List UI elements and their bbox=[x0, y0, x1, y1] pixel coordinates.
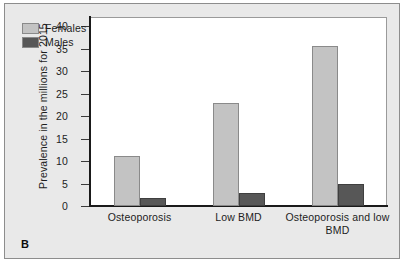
bar-males-1 bbox=[239, 193, 265, 207]
y-tick-label: 20 bbox=[28, 111, 68, 122]
y-tick-label: 30 bbox=[28, 66, 68, 77]
y-tick-mark bbox=[81, 116, 89, 117]
y-tick-mark bbox=[81, 161, 89, 162]
panel-label: B bbox=[21, 238, 29, 250]
bar-males-0 bbox=[140, 198, 166, 206]
y-tick-label: 0 bbox=[28, 201, 68, 212]
bars-layer bbox=[90, 17, 387, 206]
y-tick-mark bbox=[81, 139, 89, 140]
bar-females-1 bbox=[213, 103, 239, 207]
y-tick-mark bbox=[81, 71, 89, 72]
bar-females-0 bbox=[114, 156, 140, 206]
y-tick-mark bbox=[81, 94, 89, 95]
bar-females-2 bbox=[312, 46, 338, 206]
x-axis-label-2: Osteoporosis and low BMD bbox=[278, 211, 398, 236]
y-tick-label: 5 bbox=[28, 179, 68, 190]
y-tick-label: 15 bbox=[28, 134, 68, 145]
legend-label: Males bbox=[45, 37, 74, 48]
legend-item-males: Males bbox=[22, 37, 86, 48]
legend-swatch-icon bbox=[22, 23, 39, 34]
bar-males-2 bbox=[338, 184, 364, 207]
y-tick-label: 10 bbox=[28, 156, 68, 167]
legend-item-females: Females bbox=[22, 23, 86, 34]
chart-legend: FemalesMales bbox=[22, 23, 86, 51]
legend-swatch-icon bbox=[22, 37, 39, 48]
y-tick-mark bbox=[81, 184, 89, 185]
y-tick-label: 25 bbox=[28, 89, 68, 100]
y-tick-mark bbox=[81, 206, 89, 207]
figure-panel: Prevalence in the millions for 2015 0510… bbox=[4, 3, 400, 259]
legend-label: Females bbox=[45, 23, 86, 34]
